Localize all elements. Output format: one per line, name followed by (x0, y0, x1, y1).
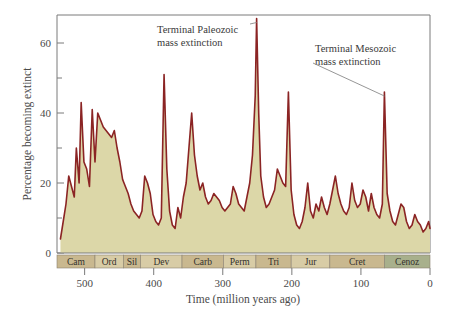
period-label-perm: Perm (230, 257, 251, 267)
x-axis-title: Time (million years ago) (186, 293, 300, 306)
period-label-dev: Dev (153, 257, 169, 267)
x-tick-label: 0 (427, 277, 433, 289)
x-tick-label: 500 (76, 277, 93, 289)
y-tick-label: 60 (40, 37, 52, 49)
x-tick-label: 100 (353, 277, 370, 289)
y-tick-label: 0 (46, 247, 52, 259)
x-tick-label: 300 (215, 277, 232, 289)
period-label-sil: Sil (127, 257, 138, 267)
x-tick-label: 200 (284, 277, 301, 289)
period-label-cenoz: Cenoz (395, 257, 419, 267)
y-axis-title: Percentage becoming extinct (21, 67, 34, 201)
y-tick-label: 40 (40, 107, 52, 119)
period-label-ord: Ord (102, 257, 117, 267)
annotation-terminal-paleozoic-line2: mass extinction (157, 37, 223, 48)
annotation-terminal-mesozoic-line2: mass extinction (315, 56, 381, 67)
period-label-cam: Cam (67, 257, 86, 267)
annotation-terminal-paleozoic-line1: Terminal Paleozoic (157, 24, 239, 35)
x-tick-label: 400 (145, 277, 162, 289)
period-label-carb: Carb (194, 257, 213, 267)
period-label-tri: Tri (268, 257, 280, 267)
annotation-terminal-mesozoic-line1: Terminal Mesozoic (315, 43, 397, 54)
y-tick-label: 20 (40, 177, 52, 189)
extinction-rate-chart: 0204060 CamOrdSilDevCarbPermTriJurCretCe… (0, 0, 452, 325)
period-label-jur: Jur (305, 257, 317, 267)
period-label-cret: Cret (349, 257, 366, 267)
